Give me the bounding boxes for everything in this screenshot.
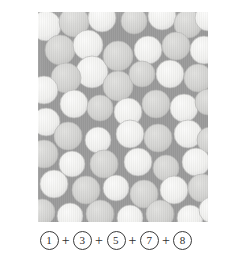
sphere <box>54 122 82 150</box>
sphere <box>162 32 190 60</box>
caption-term-3: 3 <box>73 231 92 250</box>
sphere <box>134 36 162 64</box>
sphere <box>124 148 152 176</box>
sphere <box>73 30 103 60</box>
sphere <box>121 12 147 34</box>
sphere <box>160 176 188 204</box>
caption-term-8: 8 <box>173 231 192 250</box>
sphere <box>103 41 133 71</box>
sphere <box>103 71 133 101</box>
sphere <box>60 90 88 118</box>
equation-caption: 1+3+5+7+8 <box>0 228 232 252</box>
caption-operator: + <box>59 230 73 252</box>
sphere <box>116 120 144 148</box>
sphere <box>182 148 208 176</box>
caption-term-5: 5 <box>107 231 126 250</box>
sphere <box>40 170 68 198</box>
figure-root: 1+3+5+7+8 <box>0 0 232 255</box>
sphere <box>90 150 118 178</box>
sphere <box>85 127 111 153</box>
sphere-packing-micrograph <box>38 12 208 222</box>
sphere <box>87 95 113 121</box>
caption-operator: + <box>92 230 106 252</box>
caption-operator: + <box>159 230 173 252</box>
sphere <box>45 35 75 65</box>
sphere <box>142 90 170 118</box>
sphere <box>129 61 155 87</box>
sphere <box>170 94 198 122</box>
caption-operator: + <box>126 230 140 252</box>
caption-term-1: 1 <box>40 231 59 250</box>
sphere <box>72 176 100 204</box>
sphere <box>156 60 184 88</box>
sphere <box>144 124 172 152</box>
caption-term-7: 7 <box>140 231 159 250</box>
sphere <box>184 64 208 92</box>
micrograph-canvas <box>38 12 208 222</box>
sphere <box>103 175 129 201</box>
